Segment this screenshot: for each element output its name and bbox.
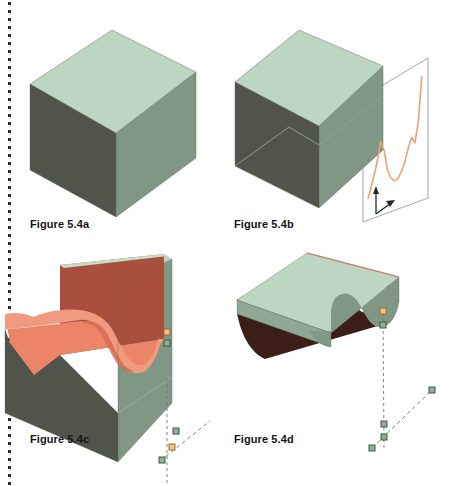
handle-green-far[interactable]	[429, 387, 435, 393]
handle-green-mid[interactable]	[173, 428, 179, 434]
manipulator-guides	[372, 313, 432, 448]
panel-figure-5-4d: Figure 5.4d	[231, 243, 462, 486]
cube-with-cutting-plane-illustration	[231, 0, 462, 243]
caption-figure-5-4d: Figure 5.4d	[234, 433, 294, 445]
handle-green-mid[interactable]	[381, 421, 387, 427]
dashed-guide-vertical	[383, 313, 384, 448]
handle-green-end[interactable]	[369, 445, 375, 451]
cube-plain-illustration	[0, 0, 231, 243]
caption-figure-5-4b: Figure 5.4b	[234, 218, 294, 230]
cube-underside-illustration	[231, 243, 462, 486]
caption-figure-5-4a: Figure 5.4a	[30, 218, 89, 230]
figure-page: Figure 5.4a	[0, 0, 462, 486]
handle-green-upper[interactable]	[380, 322, 386, 328]
handle-orange-top[interactable]	[380, 308, 386, 314]
handle-green-end[interactable]	[159, 457, 165, 463]
panel-figure-5-4b: Figure 5.4b	[231, 0, 462, 243]
panel-figure-5-4a: Figure 5.4a	[0, 0, 231, 243]
dashed-guide-diagonal	[160, 421, 210, 461]
handle-green-lower[interactable]	[381, 434, 387, 440]
handle-orange-lower[interactable]	[169, 444, 175, 450]
handle-orange-top[interactable]	[164, 329, 170, 335]
handle-green-upper[interactable]	[164, 340, 170, 346]
caption-figure-5-4c: Figure 5.4c	[30, 433, 89, 445]
manipulator-handles-panel-d[interactable]	[369, 308, 435, 451]
cube-swept-channel-illustration	[0, 243, 231, 486]
panel-figure-5-4c: Figure 5.4c	[0, 243, 231, 486]
